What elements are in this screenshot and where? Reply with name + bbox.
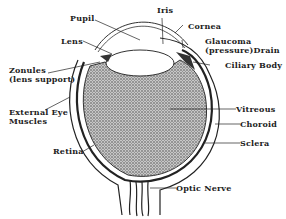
label-vitreous: Vitreous (236, 105, 275, 114)
label-glaucoma-line2: (pressure)Drain (205, 45, 280, 55)
label-sclera: Sclera (240, 139, 269, 148)
label-cornea: Cornea (188, 22, 221, 31)
label-lens: Lens (61, 37, 83, 46)
label-optic-nerve: Optic Nerve (176, 184, 232, 193)
label-pupil: Pupil (70, 14, 95, 23)
lens-shape (106, 50, 174, 76)
label-zonules-line2: (lens support) (9, 74, 75, 84)
vitreous-body (83, 60, 206, 176)
label-choroid: Choroid (240, 120, 277, 129)
label-retina: Retina (53, 147, 84, 156)
label-iris: Iris (157, 6, 173, 15)
label-external-eye-muscles: External Eye Muscles (9, 108, 68, 126)
eye-diagram: Pupil Iris Cornea Lens Glaucoma (pressur… (0, 0, 286, 219)
label-zonules: Zonules (lens support) (9, 66, 75, 84)
label-external-line2: Muscles (9, 116, 47, 126)
label-glaucoma-drain: Glaucoma (pressure)Drain (205, 37, 280, 55)
label-ciliary-body: Ciliary Body (225, 61, 282, 70)
